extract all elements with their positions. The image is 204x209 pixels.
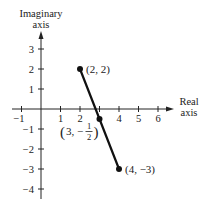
imaginary-axis-arrow-icon <box>39 31 44 39</box>
point-4-neg3 <box>116 166 122 172</box>
point-2-2 <box>77 66 83 72</box>
imaginary-axis-title: Imaginary axis <box>19 8 63 30</box>
imaginary-axis-tick-labels: 3 2 1 −1 −2 −3 −4 <box>23 44 35 195</box>
x-tick-label: 2 <box>77 113 82 124</box>
midpoint-label-prefix: 3, − <box>66 125 83 137</box>
y-tick-label: −1 <box>23 124 34 135</box>
y-tick-label: 1 <box>29 84 34 95</box>
y-tick-label: 2 <box>29 64 34 75</box>
point-label-4-neg3: (4, −3) <box>125 163 155 176</box>
x-tick-label: 6 <box>155 113 160 124</box>
y-tick-label: 3 <box>29 44 34 55</box>
real-axis-arrow-icon <box>166 107 174 112</box>
y-tick-label: −2 <box>23 144 34 155</box>
imaginary-axis-title-line1: Imaginary <box>19 8 63 19</box>
midpoint-label-numerator: 1 <box>87 121 91 131</box>
point-label-2-2: (2, 2) <box>86 63 110 76</box>
imaginary-axis-title-line2: axis <box>33 19 50 30</box>
point-label-midpoint: ( 3, − 1 2 ) <box>60 121 99 142</box>
real-axis-title-line1: Real <box>179 96 198 107</box>
x-tick-label: 5 <box>136 113 141 124</box>
complex-plane-diagram: −1 1 2 4 5 6 3 2 1 −1 −2 −3 −4 Imaginary… <box>0 0 204 209</box>
y-tick-label: −3 <box>23 164 34 175</box>
x-tick-label: 1 <box>58 113 63 124</box>
midpoint-label-open-paren: ( <box>60 124 65 141</box>
x-tick-label: 4 <box>116 113 122 124</box>
midpoint-3-neg-half <box>97 116 103 122</box>
real-axis-title: Real axis <box>179 96 198 118</box>
midpoint-label-close-paren: ) <box>94 124 99 141</box>
x-tick-label: −1 <box>13 113 24 124</box>
midpoint-label-denominator: 2 <box>87 132 91 142</box>
y-tick-label: −4 <box>23 184 35 195</box>
real-axis-title-line2: axis <box>181 107 198 118</box>
